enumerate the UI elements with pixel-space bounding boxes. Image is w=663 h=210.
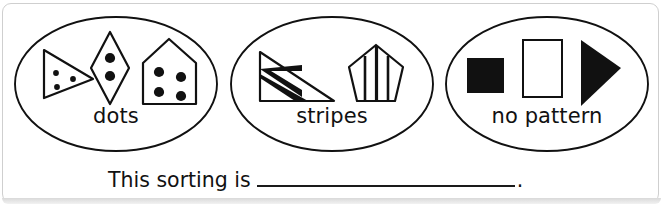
group-label-no-pattern: no pattern <box>443 106 651 127</box>
black-square <box>466 57 506 95</box>
rhombus-with-two-dots <box>87 28 133 108</box>
sentence-prefix: This sorting is <box>108 168 251 192</box>
sorting-group-no-pattern: no pattern <box>443 14 651 154</box>
sorting-worksheet: dots stripes <box>0 0 663 210</box>
group-label-stripes: stripes <box>228 106 436 127</box>
shapes-row-dots <box>12 14 220 109</box>
sorting-sentence: This sorting is. <box>108 168 523 190</box>
sorting-group-dots: dots <box>12 14 220 154</box>
right-triangle-with-stripes <box>255 47 339 107</box>
black-triangle <box>577 38 627 110</box>
answer-blank[interactable] <box>257 168 515 187</box>
sorting-group-stripes: stripes <box>228 14 436 154</box>
pentagon-house-with-four-dots <box>138 36 202 108</box>
page-frame-shadow <box>2 198 661 204</box>
shapes-row-no-pattern <box>443 14 651 109</box>
sentence-period: . <box>517 168 524 192</box>
group-label-dots: dots <box>12 106 220 127</box>
white-rectangle <box>521 38 565 100</box>
shapes-row-stripes <box>228 14 436 109</box>
pentagon-with-vertical-stripes <box>345 42 407 106</box>
